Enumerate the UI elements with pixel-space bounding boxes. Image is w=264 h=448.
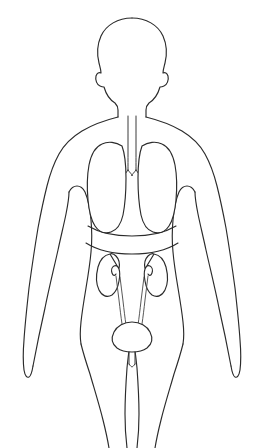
lung-right [138,142,177,232]
anatomy-illustration [0,0,264,448]
bladder [112,322,151,352]
anatomy-svg [0,0,264,448]
caption-strip [8,434,128,448]
canvas-background [0,0,264,448]
lung-left [87,142,126,232]
